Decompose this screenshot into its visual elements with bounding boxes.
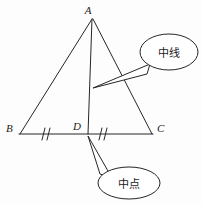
vertex-label-d: D (72, 120, 81, 132)
vertex-label-b: B (6, 122, 13, 134)
median-callout-tail (93, 64, 150, 88)
vertex-label-a: A (84, 4, 92, 16)
geometry-diagram: A B D C 中线 中点 (0, 0, 202, 205)
median-callout-label: 中线 (158, 46, 180, 60)
triangle-figure-canvas: A B D C 中线 中点 (0, 0, 202, 205)
median-line-ad (88, 19, 92, 134)
vertex-label-c: C (157, 122, 165, 134)
midpoint-callout-label: 中点 (118, 178, 140, 191)
triangle-side-ab (20, 19, 92, 134)
